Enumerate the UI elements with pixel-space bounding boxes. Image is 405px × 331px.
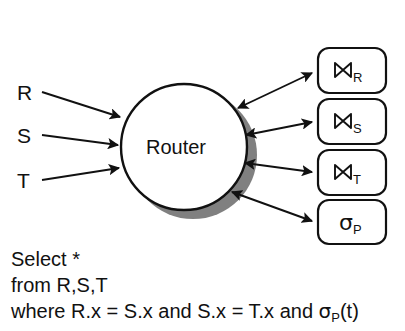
operator-select-P-subscript: P (353, 222, 362, 237)
query-where-prefix: where R.x = S.x and S.x = T.x and (11, 300, 319, 322)
arrow-router-join-S (246, 122, 312, 135)
source-label-T: T (17, 170, 30, 191)
operator-join-S-subscript: S (353, 121, 362, 136)
diagram-figure: R S T Router R S T σP (0, 0, 405, 331)
query-sigma-subscript: P (331, 310, 340, 325)
source-label-R: R (17, 82, 32, 103)
join-icon (333, 60, 353, 86)
sigma-icon: σ (339, 210, 353, 235)
query-line-select: Select * (11, 246, 405, 272)
operator-join-R-subscript: R (353, 70, 362, 85)
arrow-source-R (42, 92, 120, 117)
query-line-from: from R,S,T (11, 272, 405, 298)
query-sigma-icon: σ (319, 299, 332, 323)
operator-join-R-label: R (333, 58, 362, 86)
query-line-where: where R.x = S.x and S.x = T.x and σP(t) (11, 298, 405, 324)
router-label: Router (146, 136, 206, 159)
operator-join-T-subscript: T (353, 172, 361, 187)
join-icon (333, 162, 353, 188)
arrow-router-select-P (232, 192, 312, 221)
operator-join-S-label: S (333, 109, 362, 137)
source-label-S: S (17, 125, 31, 146)
arrow-source-S (42, 135, 118, 145)
query-text-block: Select * from R,S,T where R.x = S.x and … (11, 246, 405, 324)
operator-select-P-label: σP (339, 210, 362, 236)
operator-join-T-label: T (333, 160, 361, 188)
query-where-suffix: (t) (340, 300, 359, 322)
arrow-source-T (42, 168, 119, 180)
join-icon (333, 111, 353, 137)
arrow-router-join-R (238, 73, 312, 108)
